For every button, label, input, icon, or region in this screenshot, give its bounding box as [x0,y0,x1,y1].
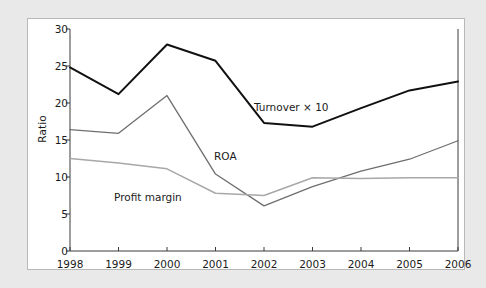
y-tick-label: 20 [48,97,68,109]
y-tick-label: 10 [48,171,68,183]
chart-panel: Ratio 051015202530 199819992000200120022… [27,18,465,270]
series-label-turnover: Turnover × 10 [254,101,329,113]
x-tick-label: 2001 [202,258,229,270]
y-tick-label: 5 [48,208,68,220]
x-tick-label: 2005 [396,258,423,270]
series-label-profit-margin: Profit margin [114,191,182,203]
y-tick-label: 25 [48,60,68,72]
y-tick-label: 15 [48,134,68,146]
x-tick-label: 1998 [57,258,84,270]
y-tick-label: 30 [48,23,68,35]
x-tick-label: 2003 [299,258,326,270]
x-tick-label: 2004 [348,258,375,270]
chart-canvas [28,19,466,271]
series-label-roa: ROA [214,150,237,162]
y-tick-label: 0 [48,245,68,257]
y-axis-ticks: 051015202530 [44,19,68,271]
x-tick-label: 1999 [105,258,132,270]
x-tick-label: 2002 [251,258,278,270]
x-tick-label: 2000 [154,258,181,270]
x-tick-label: 2006 [445,258,472,270]
plot-area: Ratio 051015202530 199819992000200120022… [28,19,466,271]
series-line-0 [70,45,458,127]
series-line-2 [70,159,458,196]
